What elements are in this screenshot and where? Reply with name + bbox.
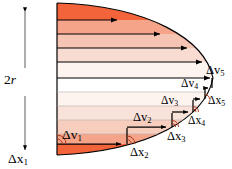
label-dx5: Δx5 bbox=[208, 95, 225, 108]
band-2 bbox=[50, 20, 225, 34]
label-dx2: Δx2 bbox=[130, 146, 149, 159]
label-dv4: Δv4 bbox=[181, 78, 198, 91]
label-dx1: Δx1 bbox=[8, 152, 28, 167]
band-6 bbox=[50, 78, 225, 92]
velocity-profile-figure: 2r Δv1 Δv2 Δv3 Δv4 Δv5 Δx1 Δx2 Δx3 Δx4 Δ… bbox=[0, 0, 232, 169]
label-dv2: Δv2 bbox=[133, 111, 152, 124]
diameter-var: r bbox=[11, 72, 16, 87]
label-dv5: Δv5 bbox=[206, 64, 225, 77]
label-dv1: Δv1 bbox=[62, 128, 82, 143]
band-1 bbox=[50, 0, 225, 20]
label-dx4: Δx4 bbox=[188, 115, 205, 128]
band-3 bbox=[50, 34, 225, 48]
label-dx3: Δx3 bbox=[167, 130, 186, 143]
band-5 bbox=[50, 62, 225, 78]
label-dv3: Δv3 bbox=[161, 95, 178, 108]
diameter-label: 2r bbox=[4, 73, 16, 87]
